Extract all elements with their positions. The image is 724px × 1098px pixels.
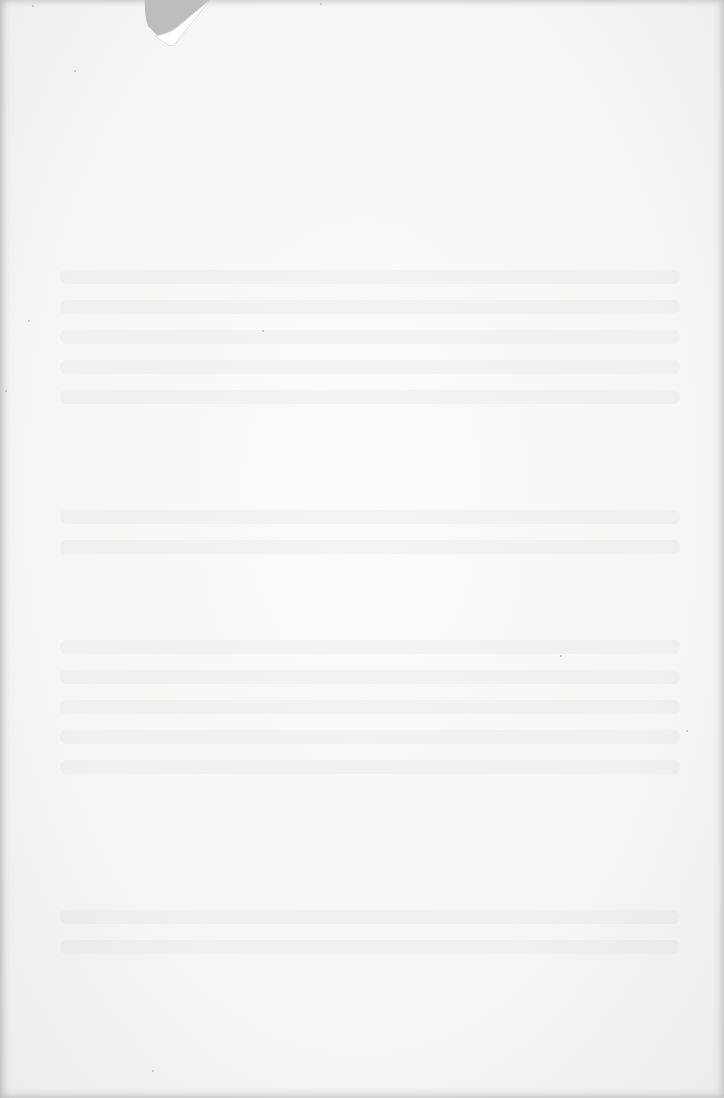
bleed-through-line [60, 910, 680, 924]
dust-speck [5, 390, 7, 392]
bleed-through-line [60, 730, 680, 744]
dust-speck [74, 70, 76, 72]
bleed-through-line [60, 270, 680, 284]
dust-speck [32, 5, 34, 7]
bleed-through-line [60, 300, 680, 314]
bleed-through-line [60, 640, 680, 654]
dust-speck [560, 655, 562, 657]
bleed-through-line [60, 700, 680, 714]
blank-page [0, 0, 724, 1098]
dust-speck [320, 3, 322, 5]
bleed-through-line [60, 670, 680, 684]
dust-speck [686, 730, 688, 732]
dust-speck [152, 1070, 154, 1072]
torn-corner [140, 0, 215, 52]
bleed-through-line [60, 540, 680, 554]
bleed-through-line [60, 510, 680, 524]
dust-speck [28, 320, 30, 322]
bleed-through-line [60, 360, 680, 374]
bleed-through-line [60, 760, 680, 774]
dust-speck [262, 330, 264, 332]
bleed-through-line [60, 390, 680, 404]
bleed-through-line [60, 940, 680, 954]
bleed-through-line [60, 330, 680, 344]
